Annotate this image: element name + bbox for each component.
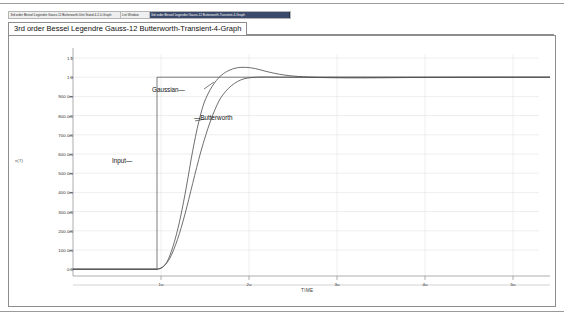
document-tab-row: 3rd order Bessel Legendre Gauss-12 Butte…: [8, 22, 554, 35]
y-tick-label: 0.0: [67, 267, 73, 272]
y-tick-label: 300.0m: [58, 209, 73, 214]
y-tick-label: 600.0m: [58, 152, 73, 157]
y-tick-label: 500.0m: [58, 171, 73, 176]
window-bottom-divider: [0, 311, 564, 312]
plot-frame: 1.1 1.0 900.0m 800.0m 700.0m 600.0m 500.…: [8, 35, 556, 307]
graph-window: 3rd order Bessel Legendre Gauss-12 Butte…: [0, 0, 564, 316]
input-label: Input—: [112, 157, 132, 164]
window-tab-strip[interactable]: 3rd order Bessel Legendre Gauss-12 Butte…: [8, 11, 291, 19]
y-tick-label: 700.0m: [58, 132, 73, 137]
window-top-divider: [0, 3, 564, 4]
x-axis-title: TIME: [301, 288, 314, 293]
y-tick-label: 100.0m: [58, 248, 73, 253]
window-tab-1[interactable]: 3rd order Bessel Legendre Gauss-12 Butte…: [9, 12, 121, 18]
window-tab-list-window[interactable]: List Window: [121, 12, 150, 18]
plot-canvas: [9, 36, 555, 306]
y-tick-label: 900.0m: [58, 94, 73, 99]
y-tick-label: 800.0m: [58, 113, 73, 118]
y-tick-label: 400.0m: [58, 190, 73, 195]
y-tick-label: 1.0: [67, 75, 73, 80]
x-tick-label: 1u: [159, 282, 164, 287]
x-tick-label: 5u: [511, 282, 516, 287]
document-tab[interactable]: 3rd order Bessel Legendre Gauss-12 Butte…: [8, 22, 247, 35]
window-tab-selected[interactable]: 3rd order Bessel Legendre Gauss-12 Butte…: [150, 12, 290, 18]
y-tick-label: 1.1: [67, 56, 73, 61]
gaussian-label: Gaussian—: [152, 86, 185, 93]
x-tick-marks: [161, 276, 513, 280]
y-tick-label: 200.0m: [58, 228, 73, 233]
grid-lines: [73, 54, 539, 276]
x-tick-label: 2u: [247, 282, 252, 287]
x-tick-label: 4u: [423, 282, 428, 287]
y-axis-title: v(7): [15, 158, 23, 163]
x-tick-label: 3u: [335, 282, 340, 287]
series-butterworth: [73, 67, 550, 269]
butterworth-label: —Butterworth: [194, 114, 233, 121]
y-axis-tick-labels: 1.1 1.0 900.0m 800.0m 700.0m 600.0m 500.…: [9, 36, 73, 306]
